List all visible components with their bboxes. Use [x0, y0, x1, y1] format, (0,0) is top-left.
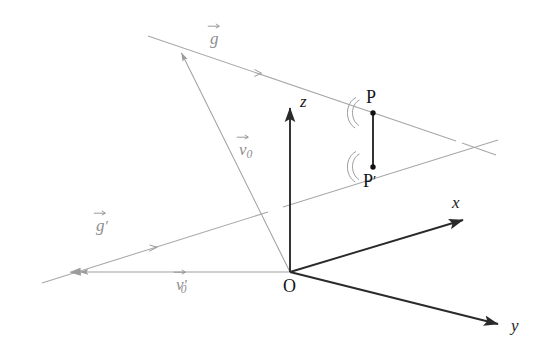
- x-axis-label: x: [452, 194, 460, 211]
- v0-vector-label: v 0: [239, 141, 252, 161]
- v0-vector-subscript: 0: [247, 148, 253, 160]
- g-prime-vector-label-stack: g: [96, 217, 105, 234]
- y-axis-label: y: [511, 317, 519, 334]
- g-vector-label: g: [210, 30, 219, 47]
- point-p-prime-letter: P: [363, 171, 373, 191]
- v0-vector-line: [182, 53, 291, 272]
- x-axis: [290, 220, 463, 272]
- point-p-dot: [370, 110, 375, 115]
- g-prime-vector-letter: g: [96, 217, 105, 234]
- point-p-prime-label: P′: [363, 172, 376, 190]
- point-p-prime-dot: [370, 164, 375, 169]
- g-prime-arrowhead: [70, 268, 81, 275]
- right-angle-arc-at-p: [347, 98, 359, 129]
- v0-prime-vector-letter: v: [176, 276, 184, 293]
- g-vector-line: [148, 36, 496, 155]
- point-p-label: P: [366, 88, 376, 106]
- v0-vector-letter: v: [239, 141, 247, 158]
- v0-vector-label-stack: v: [239, 141, 247, 158]
- y-axis: [290, 272, 498, 324]
- v0-prime-vector-label: v ′0: [176, 276, 187, 296]
- g-vector-letter: g: [210, 30, 219, 47]
- origin-label: O: [283, 277, 296, 295]
- right-angle-arc-at-p-prime: [347, 152, 359, 183]
- g-prime-mark: ′: [105, 218, 108, 234]
- diagram-canvas: [0, 0, 537, 352]
- physics-vector-diagram: z x y O P P′ g g ′ v 0: [0, 0, 537, 352]
- g-prime-vector-line: [42, 140, 498, 283]
- point-p-prime-mark: ′: [373, 173, 376, 189]
- v0-prime-vector-label-stack: v: [176, 276, 184, 293]
- g-vector-label-stack: g: [210, 30, 219, 47]
- z-axis-label: z: [300, 93, 307, 110]
- g-prime-vector-label: g ′: [96, 217, 108, 234]
